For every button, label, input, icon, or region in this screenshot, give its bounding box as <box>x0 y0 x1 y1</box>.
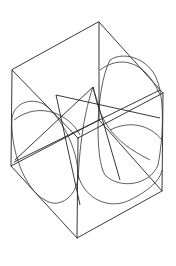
arc-top-left <box>14 111 80 135</box>
cube-diagram <box>0 0 176 266</box>
inner-line-peak-left <box>15 87 93 160</box>
cube-outer-edges <box>11 22 163 238</box>
circle-right-face <box>98 56 162 184</box>
inner-line-diagonal <box>14 90 160 162</box>
inscribed-arcs <box>12 56 163 204</box>
edge-front-down <box>77 138 78 238</box>
inner-curve-center <box>78 87 93 180</box>
cube-drawing <box>0 0 176 266</box>
cube-silhouette <box>11 22 163 238</box>
arc-top-right <box>100 62 160 95</box>
edge-back-right <box>99 120 162 191</box>
arc-mid-right <box>110 125 162 140</box>
arc-bottom-right <box>78 170 162 204</box>
inner-line-left-down <box>56 95 80 205</box>
inner-line-peak-right <box>93 87 120 180</box>
inner-triangle <box>14 87 160 205</box>
